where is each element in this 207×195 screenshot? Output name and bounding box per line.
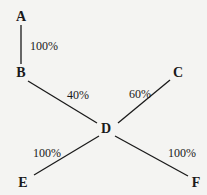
edges-layer (0, 0, 207, 195)
node-a: A (16, 10, 26, 24)
edge-label-b-d: 40% (67, 89, 89, 101)
edge-label-c-d: 60% (129, 88, 151, 100)
node-b: B (16, 66, 25, 80)
edge-label-d-e: 100% (33, 147, 61, 159)
node-e: E (18, 176, 27, 190)
edge-label-d-f: 100% (168, 147, 196, 159)
flow-diagram: A B C D E F 100% 40% 60% 100% 100% (0, 0, 207, 195)
edge-label-a-b: 100% (30, 40, 58, 52)
node-c: C (173, 66, 183, 80)
node-d: D (101, 122, 111, 136)
node-f: F (192, 176, 201, 190)
